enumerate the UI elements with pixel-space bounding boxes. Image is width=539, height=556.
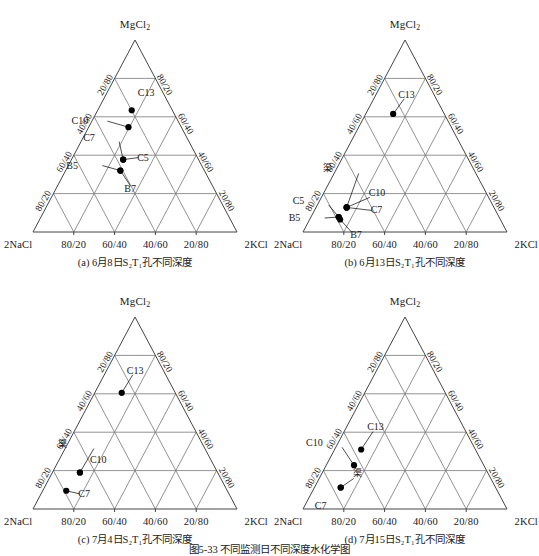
point-label-C10: C10 <box>71 116 88 126</box>
point-label-C13: C13 <box>138 88 155 98</box>
corner-label-2kcl: 2KCl <box>482 239 538 250</box>
bottom-tick-80-20: 80/20 <box>322 516 366 527</box>
point-label-B7: B7 <box>350 230 362 240</box>
corner-label-2kcl: 2KCl <box>212 516 268 527</box>
data-point-C10 <box>77 469 83 475</box>
corner-label-2kcl: 2KCl <box>212 239 268 250</box>
point-label-C7: C7 <box>78 489 90 499</box>
bottom-tick-20-80: 20/80 <box>444 239 488 250</box>
figure-main-caption: 图5-33 不同监测日不同深度水化学图 <box>0 541 539 556</box>
bottom-tick-40-60: 40/60 <box>133 516 177 527</box>
bottom-tick-20-80: 20/80 <box>174 239 218 250</box>
point-label-B7: B7 <box>124 184 136 194</box>
point-label-C10: C10 <box>306 438 323 448</box>
leader-line-C10 <box>347 197 370 207</box>
bottom-tick-80-20: 80/20 <box>52 516 96 527</box>
apex-label-mgcl2: MgCl2 <box>375 18 435 32</box>
ternary-panel-c: MgCl22NaCl2KCl80/2060/4040/6020/8020/804… <box>0 277 270 554</box>
bottom-tick-40-60: 40/60 <box>403 516 447 527</box>
panel-caption-b: (b) 6月13日S₂T₁孔不同深度 <box>270 254 539 269</box>
point-label-C10: C10 <box>90 455 107 465</box>
point-label-渠: 渠 <box>323 164 332 173</box>
leader-line-C7 <box>347 207 372 210</box>
point-label-C5: C5 <box>137 153 149 163</box>
bottom-tick-20-80: 20/80 <box>444 516 488 527</box>
leader-line-C13 <box>361 431 373 449</box>
corner-label-2kcl: 2KCl <box>482 516 538 527</box>
point-label-B5: B5 <box>289 213 301 223</box>
data-point-C7 <box>63 488 69 494</box>
leader-line-C13 <box>122 375 133 393</box>
point-label-渠: 渠 <box>353 469 362 478</box>
bottom-tick-40-60: 40/60 <box>403 239 447 250</box>
ternary-diagram-d <box>270 277 539 554</box>
ternary-diagram-b <box>270 0 539 277</box>
bottom-tick-80-20: 80/20 <box>322 239 366 250</box>
ternary-diagram-c <box>0 277 270 554</box>
point-label-C13: C13 <box>127 366 144 376</box>
point-label-C13: C13 <box>398 90 415 100</box>
ternary-panel-d: MgCl22NaCl2KCl80/2060/4040/6020/8020/804… <box>270 277 539 554</box>
point-label-C5: C5 <box>293 196 305 206</box>
ternary-panel-a: MgCl22NaCl2KCl80/2060/4040/6020/8020/804… <box>0 0 270 277</box>
point-label-C7: C7 <box>83 133 95 143</box>
point-label-B5: B5 <box>66 161 78 171</box>
panel-caption-a: (a) 6月8日S₂T₁孔不同深度 <box>0 254 270 269</box>
bottom-tick-60-40: 60/40 <box>363 516 407 527</box>
point-label-C7: C7 <box>371 205 383 215</box>
point-label-C10: C10 <box>369 188 386 198</box>
bottom-tick-60-40: 60/40 <box>93 516 137 527</box>
leader-line-C10 <box>107 121 128 127</box>
leader-line-渠 <box>347 173 359 207</box>
bottom-tick-60-40: 60/40 <box>363 239 407 250</box>
bottom-tick-80-20: 80/20 <box>52 239 96 250</box>
point-label-C7: C7 <box>315 501 327 511</box>
apex-label-mgcl2: MgCl2 <box>105 18 165 32</box>
bottom-tick-40-60: 40/60 <box>133 239 177 250</box>
point-label-渠: 渠 <box>58 440 67 449</box>
data-point-C13 <box>129 107 135 113</box>
ternary-panel-b: MgCl22NaCl2KCl80/2060/4040/6020/8020/804… <box>270 0 539 277</box>
bottom-tick-20-80: 20/80 <box>174 516 218 527</box>
ternary-diagram-a <box>0 0 270 277</box>
leader-line-C10 <box>342 447 354 465</box>
apex-label-mgcl2: MgCl2 <box>105 295 165 309</box>
apex-label-mgcl2: MgCl2 <box>375 295 435 309</box>
bottom-tick-60-40: 60/40 <box>93 239 137 250</box>
point-label-C13: C13 <box>367 422 384 432</box>
data-point-C7 <box>338 484 344 490</box>
